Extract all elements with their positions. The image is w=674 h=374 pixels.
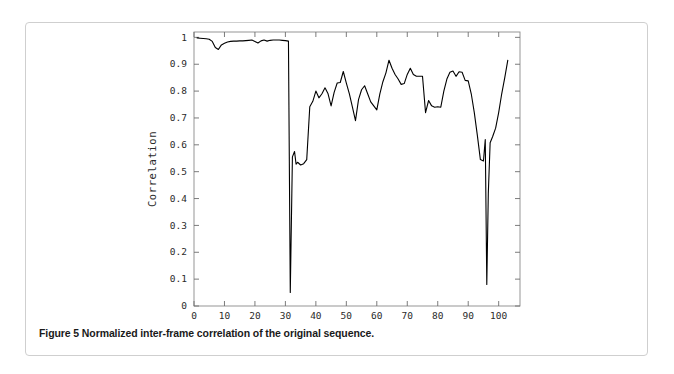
y-tick-label-0: 0 bbox=[181, 300, 187, 311]
x-tick-label-30: 30 bbox=[280, 310, 292, 321]
y-tick-label-0.7: 0.7 bbox=[170, 112, 187, 123]
y-tick-label-0.6: 0.6 bbox=[170, 139, 187, 150]
y-tick-label-0.4: 0.4 bbox=[170, 193, 187, 204]
y-tick-label-0.8: 0.8 bbox=[170, 85, 187, 96]
x-tick-label-80: 80 bbox=[432, 310, 444, 321]
y-tick-label-0.1: 0.1 bbox=[170, 273, 187, 284]
x-tick-label-20: 20 bbox=[249, 310, 261, 321]
figure-card: 00.10.20.30.40.50.60.70.80.9101020304050… bbox=[25, 22, 648, 356]
x-tick-label-100: 100 bbox=[490, 310, 507, 321]
x-tick-label-40: 40 bbox=[310, 310, 322, 321]
x-tick-label-10: 10 bbox=[219, 310, 231, 321]
screenshot-root: 00.10.20.30.40.50.60.70.80.9101020304050… bbox=[0, 0, 674, 374]
correlation-line-chart: 00.10.20.30.40.50.60.70.80.9101020304050… bbox=[26, 23, 647, 323]
y-tick-label-0.9: 0.9 bbox=[170, 58, 187, 69]
data-series-0 bbox=[197, 38, 508, 293]
chart-plot-area: 00.10.20.30.40.50.60.70.80.9101020304050… bbox=[26, 23, 647, 323]
y-tick-label-0.2: 0.2 bbox=[170, 246, 187, 257]
x-tick-label-90: 90 bbox=[462, 310, 474, 321]
x-tick-label-70: 70 bbox=[402, 310, 414, 321]
figure-body: 00.10.20.30.40.50.60.70.80.9101020304050… bbox=[26, 23, 647, 323]
y-tick-label-1: 1 bbox=[181, 32, 187, 43]
x-tick-label-0: 0 bbox=[191, 310, 197, 321]
y-axis-title: Correlation bbox=[146, 131, 158, 207]
y-tick-label-0.5: 0.5 bbox=[170, 166, 187, 177]
x-tick-label-50: 50 bbox=[341, 310, 353, 321]
figure-caption: Figure 5 Normalized inter-frame correlat… bbox=[39, 326, 639, 340]
x-tick-label-60: 60 bbox=[371, 310, 383, 321]
y-tick-label-0.3: 0.3 bbox=[170, 220, 187, 231]
plot-frame bbox=[194, 32, 520, 306]
